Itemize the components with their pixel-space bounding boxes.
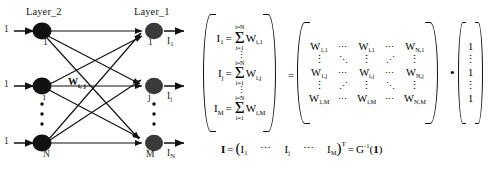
matrix-cell-sub: N,j bbox=[416, 72, 424, 79]
lhs-open-paren bbox=[202, 14, 211, 132]
matrix-cell-sub: 1,j bbox=[321, 72, 327, 79]
weight-label-wij: Wi, j bbox=[68, 76, 86, 87]
bottom-rhs-base: G bbox=[356, 143, 364, 155]
matrix-vdots: ⋮ bbox=[361, 54, 372, 66]
matrix-cell-base: W bbox=[357, 93, 367, 104]
matrix-cell-base: W bbox=[310, 41, 320, 52]
matrix-cell-N-1: WN,1 bbox=[405, 41, 424, 53]
right-node-j-label: j bbox=[148, 92, 151, 102]
lhs-row-2: Ij = i=N Σ i=1 Wi,j bbox=[218, 60, 261, 86]
main-equals-sign: = bbox=[286, 65, 296, 83]
output-IN-sub: N bbox=[170, 152, 175, 159]
output-Ij-sub: j bbox=[170, 95, 172, 102]
network-graph-svg bbox=[0, 0, 196, 172]
matrix-hdots: ⋯ bbox=[338, 42, 348, 52]
left-column-ellipsis bbox=[40, 102, 43, 125]
matrix-cell-1-M: W1,M bbox=[309, 93, 329, 105]
lhs-close-paren bbox=[268, 14, 277, 132]
lhs-row-1-lhs: I1 bbox=[217, 32, 224, 44]
bottom-elem-j-sub: j bbox=[288, 149, 290, 156]
matrix-cell-N-M: WN,M bbox=[404, 93, 426, 105]
matrix-close-paren bbox=[430, 22, 439, 124]
lhs-row-2-term: Wi,j bbox=[246, 67, 262, 79]
input-label-bottom: 1 bbox=[4, 136, 9, 146]
ones-entry: 1 bbox=[468, 41, 473, 53]
matrix-vdots: ⋮ bbox=[361, 80, 372, 92]
lhs-rows: I1 = i=N Σ i=1 Wi,1 ⋮ Ij = i=N bbox=[211, 24, 268, 121]
bottom-elem-j: Ij bbox=[284, 143, 290, 155]
lhs-row-1-term: Wi,1 bbox=[246, 32, 263, 44]
matrix-hdots: ⋯ bbox=[338, 94, 348, 104]
matrix-hdots: ⋯ bbox=[385, 42, 395, 52]
matrix-vdots: ⋮ bbox=[409, 54, 420, 66]
input-arrows bbox=[14, 31, 34, 143]
network-diagram: Layer_2 Layer_1 1 i N 1 1 1 1 j M I1 Ij … bbox=[0, 0, 196, 172]
output-arrows bbox=[164, 31, 184, 143]
left-node-1-label: 1 bbox=[43, 37, 48, 47]
weight-label-sub: i, j bbox=[78, 82, 86, 90]
lhs-row-3-sigma: i=N Σ i=1 bbox=[235, 95, 245, 121]
bottom-transpose: T bbox=[342, 140, 346, 148]
weight-edges bbox=[47, 31, 142, 143]
layer-1-label: Layer_1 bbox=[134, 6, 170, 17]
matrix-cell-sub: 1,1 bbox=[320, 46, 328, 53]
lhs-row-1: I1 = i=N Σ i=1 Wi,1 bbox=[217, 24, 263, 50]
lhs-row-2-sub: j bbox=[222, 74, 224, 81]
matrix-ddots: ⋱ bbox=[339, 55, 348, 65]
bottom-dots-1: ⋯ bbox=[260, 142, 271, 155]
output-label-IN: IN bbox=[167, 148, 175, 158]
lhs-row-3: IM = i=N Σ i=1 Wi,M bbox=[214, 95, 265, 121]
bottom-equation: I = ( I1 ⋯ Ij ⋯ IM )T = G-1 ( 1 ) bbox=[221, 140, 382, 157]
matrix-cell-sub: i,M bbox=[367, 98, 376, 105]
lhs-row-2-term-sub: i,j bbox=[256, 74, 261, 81]
figure-canvas: Layer_2 Layer_1 1 i N 1 1 1 1 j M I1 Ij … bbox=[0, 0, 496, 172]
matrix-cell-sub: i,1 bbox=[368, 46, 374, 53]
matrix-cell-i-M: Wi,M bbox=[357, 93, 376, 105]
lhs-row-1-term-base: W bbox=[246, 32, 256, 44]
matrix-cell-1-j: W1,j bbox=[311, 67, 327, 79]
lhs-vector: I1 = i=N Σ i=1 Wi,1 ⋮ Ij = i=N bbox=[202, 14, 277, 132]
lhs-row-2-lhs: Ij bbox=[218, 67, 224, 79]
matrix-cell-base: W bbox=[405, 41, 415, 52]
weight-label-base: W bbox=[68, 76, 78, 87]
matrix-cell-N-j: WN,j bbox=[406, 67, 424, 79]
matrix-vdots: ⋮ bbox=[409, 80, 420, 92]
ones-close-paren bbox=[479, 22, 484, 124]
matrix-cell-i-1: Wi,1 bbox=[358, 41, 374, 53]
output-I1-sub: 1 bbox=[170, 40, 173, 47]
left-node-N-label: N bbox=[43, 149, 50, 159]
ones-entry: 1 bbox=[468, 93, 473, 105]
matrix-cell-base: W bbox=[406, 67, 416, 78]
matrix-cell-i-j: Wi,j bbox=[359, 67, 374, 79]
right-node-M-label: M bbox=[146, 149, 154, 159]
input-label-top: 1 bbox=[4, 24, 9, 34]
lhs-row-3-equals: = bbox=[226, 102, 232, 114]
matrix-adots: ⋰ bbox=[386, 55, 395, 65]
matrix-open-paren bbox=[296, 22, 305, 124]
matrix-cell-1-1: W1,1 bbox=[310, 41, 328, 53]
matrix-hdots: ⋯ bbox=[385, 94, 395, 104]
lhs-row-1-sub: 1 bbox=[220, 38, 223, 45]
bottom-rhs-sup: -1 bbox=[364, 142, 370, 149]
main-equals-glyph: = bbox=[288, 69, 294, 81]
bottom-elem-M: IM bbox=[327, 143, 337, 155]
weight-matrix: W1,1⋯Wi,1⋯WN,1⋮⋱⋮⋰⋮W1,j⋯Wi,j⋯WN,j⋮⋰⋮⋱⋮W1… bbox=[296, 22, 439, 124]
ones-vector: 1⋮1⋮1 bbox=[457, 22, 484, 124]
right-node-1-label: 1 bbox=[148, 37, 153, 47]
matrix-cell-sub: i,j bbox=[369, 72, 374, 79]
bottom-rhs-G: G-1 bbox=[356, 143, 369, 155]
matrix-equation: I1 = i=N Σ i=1 Wi,1 ⋮ Ij = i=N bbox=[196, 0, 496, 172]
sigma-sign-2: Σ bbox=[235, 66, 245, 80]
input-label-middle: 1 bbox=[4, 79, 9, 89]
matrix-cell-sub: N,1 bbox=[415, 46, 424, 53]
bottom-elem-M-sub: M bbox=[331, 149, 337, 156]
left-node-i-label: i bbox=[43, 92, 46, 102]
bottom-lhs: I bbox=[221, 143, 225, 155]
ones-entry: 1 bbox=[468, 67, 473, 79]
dot-operator-glyph: • bbox=[450, 65, 455, 80]
matrix-cell-base: W bbox=[359, 67, 369, 78]
bottom-equals-2: = bbox=[348, 143, 354, 155]
right-column-ellipsis bbox=[152, 102, 155, 125]
matrix-cell-base: W bbox=[404, 93, 414, 104]
output-label-I1: I1 bbox=[167, 36, 174, 46]
